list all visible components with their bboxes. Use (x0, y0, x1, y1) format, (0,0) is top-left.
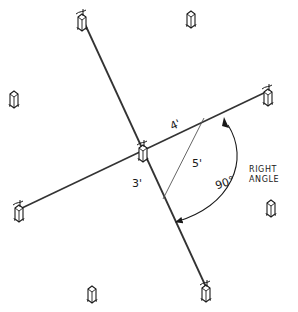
post-mid-right (262, 84, 273, 106)
post-lower-left (13, 200, 24, 222)
post-top-center (186, 11, 196, 28)
post-mid-left (9, 91, 19, 108)
diagram-canvas: 4' 5' 3' 90° RIGHT ANGLE (0, 0, 298, 312)
post-center (137, 140, 148, 162)
label-hypotenuse-5ft: 5' (192, 157, 202, 170)
label-side-3ft: 3' (132, 177, 142, 190)
label-side-4ft: 4' (168, 117, 183, 133)
post-lower-right (266, 200, 276, 217)
label-angle: ANGLE (249, 175, 279, 184)
label-right: RIGHT (249, 165, 277, 174)
post-bottom-right (200, 280, 211, 302)
label-angle-90: 90° (214, 173, 237, 192)
right-angle-arc (176, 125, 237, 222)
post-top-left (76, 9, 87, 31)
arc-arrow-top (222, 117, 229, 128)
post-bottom-left (87, 286, 97, 303)
